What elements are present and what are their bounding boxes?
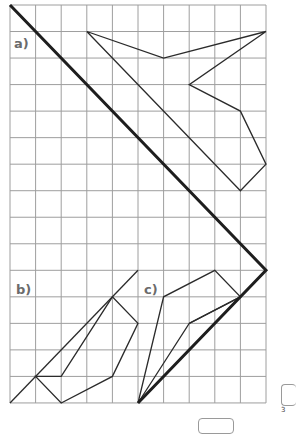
exercise-label-b: b)	[15, 283, 32, 296]
exercise-label-c: c)	[143, 283, 159, 296]
answer-box-right[interactable]	[281, 384, 296, 406]
square-grid	[10, 5, 266, 403]
page-number: 3	[281, 406, 285, 414]
answer-box-bottom[interactable]	[198, 418, 234, 434]
exercise-label-a: a)	[13, 37, 30, 50]
